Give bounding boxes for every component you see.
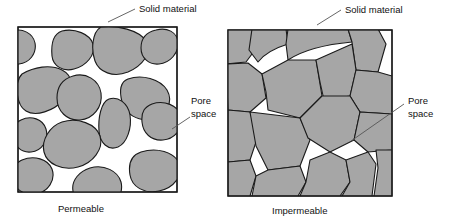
permeable-caption: Permeable bbox=[58, 203, 104, 214]
permeable-solid-material-label: Solid material bbox=[139, 3, 197, 14]
grain bbox=[14, 118, 47, 152]
impermeable-pore-space-label-line2: space bbox=[408, 108, 433, 119]
permeable-pore-space-label-line2: space bbox=[191, 108, 216, 119]
grain bbox=[142, 103, 182, 140]
grain bbox=[13, 158, 53, 194]
impermeable-caption: Impermeable bbox=[272, 205, 327, 216]
grain bbox=[57, 75, 101, 120]
permeable-pore-space-label-line1: Pore bbox=[191, 95, 211, 106]
impermeable-pore-space-label-line1: Pore bbox=[408, 95, 428, 106]
impermeable-solid-material-label: Solid material bbox=[345, 4, 403, 15]
grain bbox=[99, 98, 131, 148]
grain bbox=[228, 160, 256, 196]
porosity-diagram: Solid material Pore space Permeable bbox=[0, 0, 452, 224]
